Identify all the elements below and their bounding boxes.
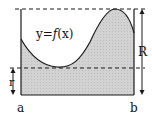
label-b: b	[130, 101, 138, 115]
shaded-region	[21, 9, 134, 95]
label-a: a	[17, 101, 24, 115]
curve-label: y=f(x)	[35, 27, 73, 41]
label-R: R	[138, 45, 148, 59]
washer-method-diagram: y=f(x) a b R r	[0, 0, 152, 123]
label-r: r	[9, 76, 15, 89]
